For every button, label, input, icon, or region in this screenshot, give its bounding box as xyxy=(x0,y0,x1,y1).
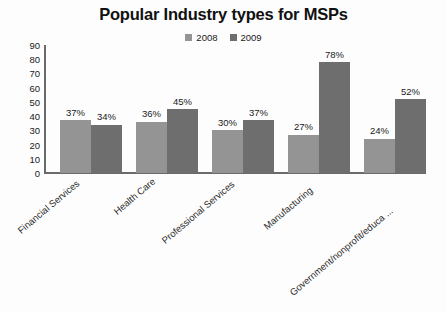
y-tick-80: 80 xyxy=(12,55,40,65)
bar-2008-manufacturing[interactable] xyxy=(288,135,319,173)
y-tick-90: 90 xyxy=(12,41,40,51)
y-tick-50: 50 xyxy=(12,98,40,108)
legend-item-2008: 2008 xyxy=(185,33,217,43)
x-label-professional-services: Professional Services xyxy=(160,179,236,245)
bar-group-health-care: 36% 45% xyxy=(136,45,198,173)
bar-group-professional-services: 30% 37% xyxy=(212,45,274,173)
legend-label-2008: 2008 xyxy=(196,33,217,43)
plot-area: 37% 34% 36% 45% 30% 37% 27% xyxy=(44,45,426,173)
y-axis-tick-labels: 90 80 70 60 50 40 30 20 10 0 xyxy=(12,45,40,173)
bar-label-2009-financial-services: 34% xyxy=(90,112,123,122)
legend-label-2009: 2009 xyxy=(241,33,262,43)
y-tick-10: 10 xyxy=(12,155,40,165)
bar-label-2008-health-care: 36% xyxy=(135,109,168,119)
y-tick-40: 40 xyxy=(12,112,40,122)
bar-2009-financial-services[interactable] xyxy=(91,125,122,173)
chart-container: Popular Industry types for MSPs 2008 200… xyxy=(0,0,447,312)
bar-2009-professional-services[interactable] xyxy=(243,120,274,173)
bar-group-government-nonprofit-education: 24% 52% xyxy=(364,45,426,173)
bar-2008-government-nonprofit-education[interactable] xyxy=(364,139,395,173)
x-label-financial-services: Financial Services xyxy=(16,178,81,235)
bar-group-financial-services: 37% 34% xyxy=(60,45,122,173)
bar-label-2009-government-nonprofit-education: 52% xyxy=(394,87,427,97)
bar-group-manufacturing: 27% 78% xyxy=(288,45,350,173)
x-axis-category-labels: Financial Services Health Care Professio… xyxy=(0,176,447,312)
bar-label-2008-financial-services: 37% xyxy=(59,108,92,118)
bar-2009-government-nonprofit-education[interactable] xyxy=(395,99,426,173)
bar-label-2008-government-nonprofit-education: 24% xyxy=(363,126,396,136)
x-label-health-care: Health Care xyxy=(112,176,157,216)
bar-label-2009-manufacturing: 78% xyxy=(318,50,351,60)
bar-2008-financial-services[interactable] xyxy=(60,120,91,173)
bar-2009-manufacturing[interactable] xyxy=(319,62,350,173)
bar-label-2008-manufacturing: 27% xyxy=(287,122,320,132)
bar-2008-health-care[interactable] xyxy=(136,122,167,173)
legend-item-2009: 2009 xyxy=(230,33,262,43)
y-tick-70: 70 xyxy=(12,69,40,79)
x-label-government-nonprofit-education: Government/nonprofit/educa ... xyxy=(288,206,394,297)
legend-swatch-2009-icon xyxy=(230,34,237,41)
y-tick-30: 30 xyxy=(12,126,40,136)
bar-groups: 37% 34% 36% 45% 30% 37% 27% xyxy=(46,45,426,173)
y-tick-20: 20 xyxy=(12,141,40,151)
chart-title: Popular Industry types for MSPs xyxy=(0,5,447,24)
y-tick-60: 60 xyxy=(12,84,40,94)
bar-2009-health-care[interactable] xyxy=(167,109,198,173)
chart-legend: 2008 2009 xyxy=(0,33,447,43)
bar-2008-professional-services[interactable] xyxy=(212,130,243,173)
bar-label-2008-professional-services: 30% xyxy=(211,118,244,128)
bar-label-2009-health-care: 45% xyxy=(166,97,199,107)
bar-label-2009-professional-services: 37% xyxy=(242,108,275,118)
x-label-manufacturing: Manufacturing xyxy=(262,185,314,231)
legend-swatch-2008-icon xyxy=(185,34,192,41)
